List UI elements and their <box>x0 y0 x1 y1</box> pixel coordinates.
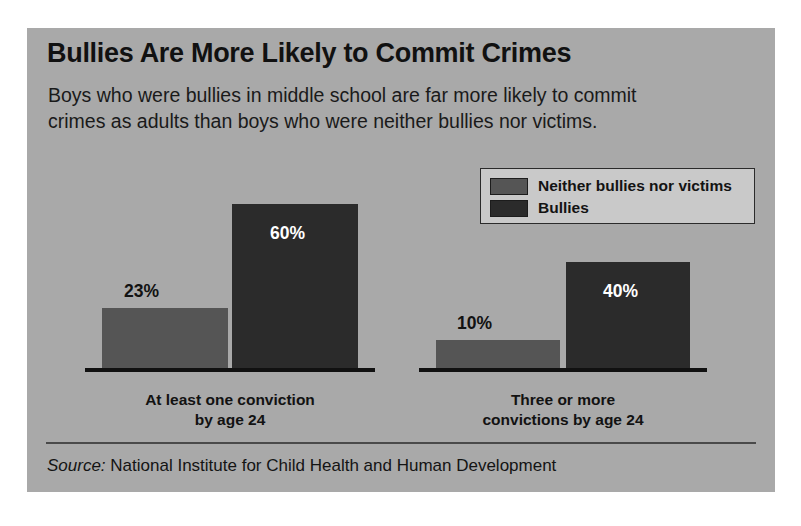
source-note: Source: National Institute for Child Hea… <box>47 456 556 476</box>
bar-chart-plot-area: 23% 60% At least one conviction by age 2… <box>27 28 775 492</box>
bar-value-neither-group-2: 10% <box>457 313 492 334</box>
bar-bullies-group-2 <box>566 262 690 368</box>
category-label-group-2: Three or more convictions by age 24 <box>419 390 707 430</box>
footer-divider <box>46 442 756 444</box>
category-label-group-1: At least one conviction by age 24 <box>85 390 375 430</box>
bar-neither-group-2 <box>436 340 560 368</box>
bar-neither-group-1 <box>102 308 228 368</box>
bar-value-neither-group-1: 23% <box>124 281 159 302</box>
category-label-group-1-line-1: At least one conviction <box>145 391 315 408</box>
bar-value-bullies-group-2: 40% <box>603 281 638 302</box>
category-label-group-2-line-1: Three or more <box>511 391 615 408</box>
source-label: Source: <box>47 456 106 475</box>
axis-baseline-group-2 <box>419 368 707 372</box>
axis-baseline-group-1 <box>85 368 375 372</box>
category-label-group-1-line-2: by age 24 <box>195 411 266 428</box>
category-label-group-2-line-2: convictions by age 24 <box>482 411 643 428</box>
source-text: National Institute for Child Health and … <box>106 456 557 475</box>
infographic-panel: Bullies Are More Likely to Commit Crimes… <box>27 28 775 492</box>
bar-value-bullies-group-1: 60% <box>270 223 305 244</box>
